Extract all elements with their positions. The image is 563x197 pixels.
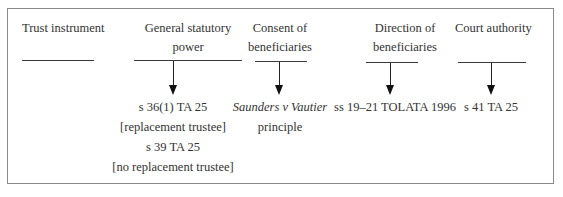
result-saunders-v-vautier: Saunders v Vautier <box>220 97 340 117</box>
heading-court-authority: Court authority <box>455 19 555 38</box>
rule-consent-of-beneficiaries <box>255 61 307 62</box>
arrow-stem-direction <box>390 63 391 86</box>
arrow-stem-consent <box>279 62 280 86</box>
result-s39: s 39 TA 25 <box>103 137 243 157</box>
arrow-down-icon <box>386 85 394 95</box>
heading-consent-line2: beneficiaries <box>230 38 330 57</box>
heading-direction-line1: Direction of <box>355 19 455 38</box>
heading-direction-line2: beneficiaries <box>355 38 455 57</box>
arrow-stem-general-statutory-power <box>173 61 174 86</box>
result-principle: principle <box>220 117 340 137</box>
heading-trust-instrument: Trust instrument <box>22 19 117 38</box>
rule-general-statutory-power <box>134 60 242 61</box>
arrow-stem-court-authority <box>491 63 492 86</box>
arrow-down-icon <box>487 85 495 95</box>
result-no-replacement-trustee: [no replacement trustee] <box>103 157 243 177</box>
rule-direction-of-beneficiaries <box>366 62 418 63</box>
rule-trust-instrument <box>22 60 94 61</box>
result-s41-ta25: s 41 TA 25 <box>446 97 536 117</box>
arrow-down-icon <box>275 85 283 95</box>
result-ss19-21-tolata: ss 19–21 TOLATA 1996 <box>330 97 460 117</box>
rule-court-authority <box>458 62 526 63</box>
heading-consent-line1: Consent of <box>230 19 330 38</box>
arrow-down-icon <box>169 85 177 95</box>
